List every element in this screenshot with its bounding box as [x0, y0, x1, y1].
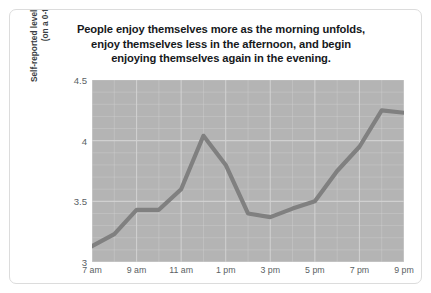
y-axis-title: Self-reported levels of enjoying myself …	[29, 9, 55, 97]
y-axis-title-line-2: (on a 0-to-6 scale)	[40, 9, 51, 97]
x-axis-tick-label: 3 pm	[261, 265, 281, 275]
x-axis-tick-labels: 7 am9 am11 am1 pm3 pm5 pm7 pm9 pm	[10, 265, 422, 281]
y-axis-tick-label: 4	[62, 135, 87, 146]
plot-svg	[92, 80, 404, 262]
chart-title-line-2: enjoy themselves less in the afternoon, …	[46, 37, 396, 52]
y-axis-tick-label: 3.5	[62, 196, 87, 207]
x-axis-tick-label: 1 pm	[216, 265, 236, 275]
chart-title-line-3: enjoying themselves again in the evening…	[46, 51, 396, 66]
chart-title-line-1: People enjoy themselves more as the morn…	[46, 22, 396, 37]
y-axis-tick-labels: 33.544.5	[62, 10, 87, 283]
chart-card: People enjoy themselves more as the morn…	[9, 9, 422, 284]
y-axis-title-line-1: Self-reported levels of enjoying myself	[29, 9, 40, 97]
y-axis-tick-label: 4.5	[62, 75, 87, 86]
x-axis-tick-label: 9 pm	[394, 265, 414, 275]
x-axis-tick-label: 9 am	[127, 265, 147, 275]
x-axis-tick-label: 5 pm	[305, 265, 325, 275]
vertical-gridlines	[92, 80, 404, 262]
chart-title: People enjoy themselves more as the morn…	[46, 22, 396, 66]
x-axis-tick-label: 7 am	[82, 265, 102, 275]
plot-area	[92, 80, 404, 262]
x-axis-tick-label: 11 am	[169, 265, 193, 275]
x-axis-tick-label: 7 pm	[350, 265, 370, 275]
